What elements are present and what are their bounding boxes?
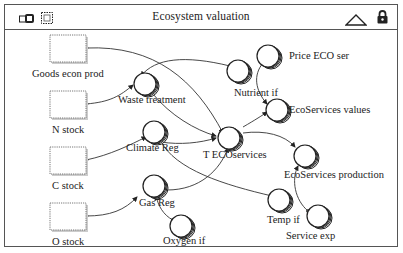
title-bar: Ecosystem valuation xyxy=(5,5,397,30)
link-tec-ecoprod xyxy=(243,132,295,147)
variable-label: Oxygen if xyxy=(163,235,205,246)
var-temp-if[interactable] xyxy=(268,189,293,213)
window-title: Ecosystem valuation xyxy=(5,10,397,22)
link-nutrient-waste xyxy=(141,60,230,76)
variable-label: Waste treatment xyxy=(118,94,186,105)
variable-label: EcoServices production xyxy=(284,169,384,180)
stock-label: N stock xyxy=(52,124,84,135)
variable-label: Gas Reg xyxy=(139,197,175,208)
link-ostock-gas xyxy=(86,197,137,216)
triangle-up-icon[interactable] xyxy=(345,12,367,30)
var-service-exp[interactable] xyxy=(307,205,332,229)
link-tec-ecovalues xyxy=(243,112,267,127)
stock-n-stock[interactable] xyxy=(50,91,88,120)
variable-label: Climate Reg xyxy=(126,142,179,153)
variable-label: Service exp xyxy=(286,230,335,241)
variable-label: T ECOservices xyxy=(203,149,267,160)
diagram-canvas: Goods econ prod N stock C stock O stock … xyxy=(5,30,397,247)
stock-goods-econ-prod[interactable] xyxy=(50,35,88,64)
var-nutrient-if[interactable] xyxy=(227,60,252,84)
variable-label: Nutrient if xyxy=(234,87,278,98)
var-t-ecoservices[interactable] xyxy=(218,127,243,151)
stock-label: O stock xyxy=(52,236,84,247)
var-gas-reg[interactable] xyxy=(143,175,168,199)
stock-o-stock[interactable] xyxy=(50,203,88,232)
stock-label: C stock xyxy=(52,180,84,191)
lock-icon[interactable] xyxy=(377,10,388,28)
model-window: Ecosystem valuation xyxy=(4,4,398,247)
variable-label: Price ECO ser xyxy=(289,50,349,61)
variable-label: EcoServices values xyxy=(289,104,370,115)
stock-c-stock[interactable] xyxy=(50,147,88,176)
variable-label: Temp if xyxy=(267,214,300,225)
var-ecoservices-production[interactable] xyxy=(294,145,319,169)
stock-label: Goods econ prod xyxy=(32,68,104,79)
var-ecoservices-values[interactable] xyxy=(266,99,291,123)
